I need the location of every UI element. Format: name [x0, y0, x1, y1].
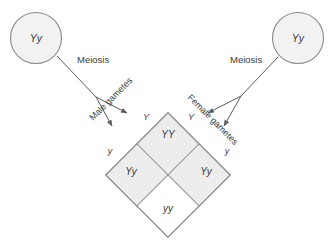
male-gametes-axis-label: Male gametes — [87, 75, 134, 122]
punnett-cell-bottom-genotype: yy — [162, 203, 174, 214]
male-gamete-allele-y: y — [107, 146, 113, 156]
punnett-cell-top-genotype: YY — [161, 129, 176, 140]
female-gamete-allele-y: y — [224, 146, 230, 156]
female-gamete-allele-Y: Y — [188, 112, 195, 122]
punnett-cell-right-genotype: Yy — [200, 166, 213, 177]
meiosis-right-label: Meiosis — [230, 54, 262, 65]
diagram-canvas: Yy Meiosis Yy Meiosis YY Yy Yy yy — [0, 0, 334, 242]
meiosis-left-label: Meiosis — [77, 54, 109, 65]
punnett-cell-left-genotype: Yy — [125, 166, 138, 177]
female-parent-genotype: Yy — [292, 32, 305, 44]
male-parent-genotype: Yy — [30, 32, 43, 44]
male-gamete-allele-Y: Y — [143, 112, 150, 122]
punnett-square-diagram: Yy Meiosis Yy Meiosis YY Yy Yy yy — [0, 0, 334, 242]
